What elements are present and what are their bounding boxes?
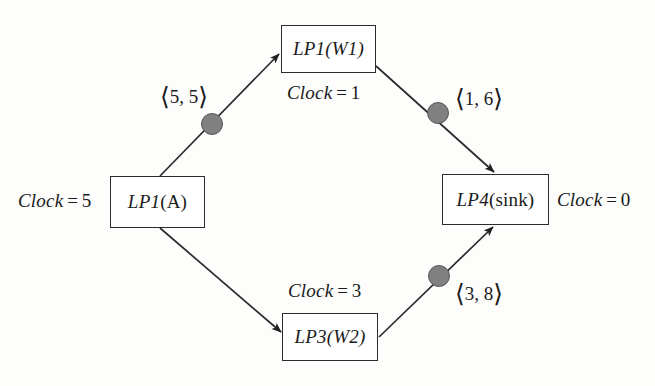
message-token-1-6[interactable] bbox=[427, 102, 449, 124]
node-lp3w2[interactable]: LP3(W2) bbox=[282, 313, 378, 361]
message-label-5-5: ⟨5, 5⟩ bbox=[160, 82, 208, 111]
clock-label-lp1w1: Clock = 1 bbox=[287, 82, 360, 104]
node-lp4sink[interactable]: LP4(sink) bbox=[442, 174, 549, 225]
node-lp3w2-label: LP3(W2) bbox=[294, 326, 365, 348]
message-label-1-6: ⟨1, 6⟩ bbox=[455, 84, 503, 113]
node-lp1a-label: LP1(A) bbox=[128, 191, 187, 213]
diagram-canvas: LP1(A) LP1(W1) LP3(W2) LP4(sink) Clock =… bbox=[0, 0, 655, 386]
clock-label-lp3w2: Clock = 3 bbox=[288, 280, 361, 302]
message-label-3-8: ⟨3, 8⟩ bbox=[455, 279, 503, 308]
node-lp1w1-label: LP1(W1) bbox=[293, 38, 364, 60]
edge-lp1a-to-lp3w2 bbox=[160, 228, 281, 332]
node-lp1a[interactable]: LP1(A) bbox=[110, 176, 205, 228]
clock-label-lp4sink: Clock = 0 bbox=[557, 189, 630, 211]
message-token-5-5[interactable] bbox=[201, 113, 223, 135]
node-lp1w1[interactable]: LP1(W1) bbox=[281, 25, 376, 73]
clock-label-lp1a: Clock = 5 bbox=[18, 190, 91, 212]
message-token-3-8[interactable] bbox=[428, 265, 450, 287]
node-lp4sink-label: LP4(sink) bbox=[457, 189, 535, 211]
